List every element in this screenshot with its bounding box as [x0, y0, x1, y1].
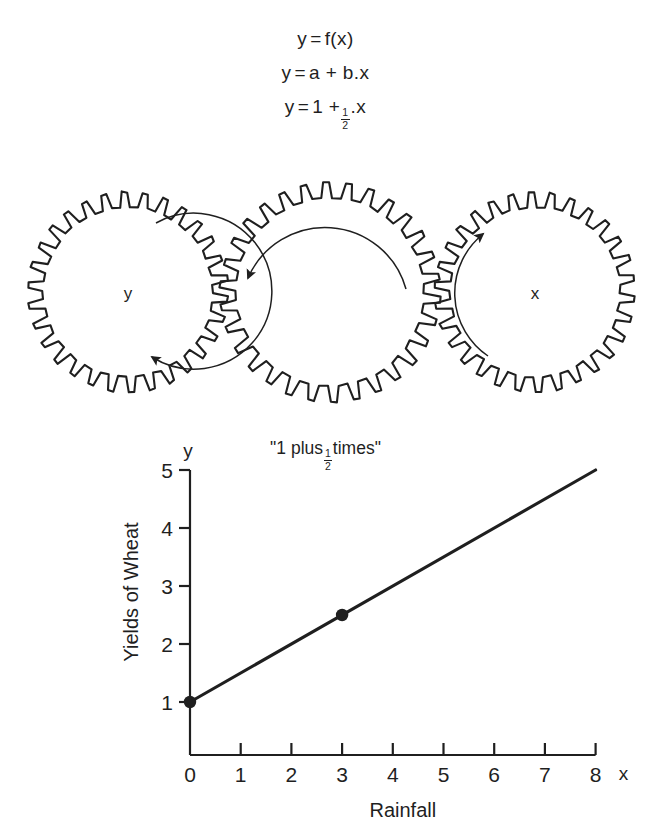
x-axis-tick-label: 6: [488, 763, 500, 786]
gear-diagram-svg: y x: [0, 168, 651, 423]
x-axis-tick-label: 2: [286, 763, 298, 786]
x-axis-tick-label: 4: [387, 763, 399, 786]
equation-operator: =: [295, 96, 313, 117]
y-axis-tick-label: 2: [161, 633, 173, 656]
x-axis-symbol-label: x: [619, 763, 629, 784]
fraction-numerator: 1: [341, 107, 349, 119]
x-axis-tick-label: 5: [438, 763, 450, 786]
equation-rhs-suffix: .x: [351, 96, 367, 117]
line-chart-svg: 12345012345678yxRainfallYields of Wheat: [0, 430, 651, 833]
equation-linear-specific: y=1 +12.x: [0, 90, 651, 131]
one-half-fraction: 12: [341, 107, 349, 130]
equation-operator: =: [292, 62, 310, 83]
data-point-marker: [184, 696, 196, 708]
x-axis-tick-label: 7: [539, 763, 551, 786]
x-axis-tick-label: 8: [590, 763, 602, 786]
gear-right-rotation-arrow: [455, 234, 488, 356]
equation-rhs: a + b.x: [309, 62, 369, 83]
equation-rhs: f(x): [325, 28, 354, 49]
equation-lhs: y: [282, 62, 292, 83]
x-axis-tick-label: 0: [184, 763, 196, 786]
y-axis-tick-label: 4: [161, 517, 173, 540]
equation-lhs: y: [297, 28, 307, 49]
equations-block: y=f(x) y=a + b.x y=1 +12.x: [0, 22, 651, 131]
y-axis-symbol-label: y: [183, 440, 193, 461]
y-axis-tick-label: 3: [161, 575, 173, 598]
equation-general-function: y=f(x): [0, 22, 651, 56]
equation-linear-general: y=a + b.x: [0, 56, 651, 90]
y-axis-tick-label: 5: [161, 459, 173, 482]
gear-right: x: [435, 192, 635, 392]
data-point-marker: [336, 609, 348, 621]
data-line: [190, 470, 596, 702]
line-chart: 12345012345678yxRainfallYields of Wheat: [0, 430, 651, 833]
equation-rhs-prefix: 1 +: [312, 96, 340, 117]
gear-right-label: x: [531, 284, 540, 303]
x-axis-tick-label: 3: [336, 763, 348, 786]
gear-left-label: y: [124, 284, 133, 303]
gear-middle: [219, 182, 440, 402]
y-axis-tick-label: 1: [161, 691, 173, 714]
equation-operator: =: [307, 28, 325, 49]
gear-diagram: y x "1 plus12times": [0, 168, 651, 423]
x-axis-title: Rainfall: [369, 799, 436, 821]
y-axis-title: Yields of Wheat: [120, 522, 142, 662]
x-axis-tick-label: 1: [235, 763, 247, 786]
equation-lhs: y: [285, 96, 295, 117]
fraction-denominator: 2: [341, 120, 349, 131]
